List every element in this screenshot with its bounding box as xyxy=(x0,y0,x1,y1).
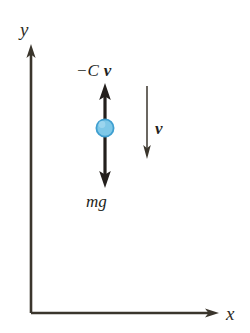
drag-force-label-text: −C xyxy=(76,61,99,80)
velocity-label: v xyxy=(155,119,163,138)
sphere-highlight xyxy=(99,121,106,128)
drag-force-vector-symbol: v xyxy=(104,61,112,80)
weight-force-label: mg xyxy=(86,192,107,211)
drag-force-label: −Cv xyxy=(76,61,112,80)
falling-sphere xyxy=(96,119,113,136)
x-axis-label: x xyxy=(225,303,235,324)
physics-diagram-canvas: y x −Cv mg v xyxy=(0,0,250,333)
diagram-svg: y x −Cv mg v xyxy=(0,0,250,333)
y-axis-label: y xyxy=(18,19,29,40)
